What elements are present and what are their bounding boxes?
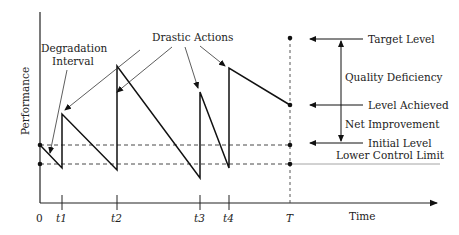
target-level-label: Target Level xyxy=(368,33,435,45)
y-axis-label: Performance xyxy=(19,67,31,135)
dot-initial-y xyxy=(38,143,43,148)
drastic-actions-label: Drastic Actions xyxy=(152,31,233,43)
degradation-label-line2: Interval xyxy=(52,55,95,67)
performance-curve xyxy=(40,66,290,178)
lower-control-limit-label: Lower Control Limit xyxy=(336,149,445,161)
tick-label-t3: t3 xyxy=(194,212,205,224)
net-improvement-label: Net Improvement xyxy=(345,118,440,130)
tick-label-T: T xyxy=(286,212,294,224)
performance-diagram: 0 t1 t2 t3 t4 T Performance Time Drastic… xyxy=(0,0,459,235)
x-axis-label: Time xyxy=(349,210,376,222)
initial-level-label: Initial Level xyxy=(368,137,432,149)
degradation-label-line1: Degradation xyxy=(41,42,108,54)
drastic-arrow-4 xyxy=(200,46,225,66)
dot-lower-y xyxy=(38,162,43,167)
quality-deficiency-label: Quality Deficiency xyxy=(345,71,443,83)
drastic-arrow-3 xyxy=(185,47,198,88)
drastic-arrow-2 xyxy=(117,47,172,92)
tick-label-t1: t1 xyxy=(56,212,67,224)
dot-lower-T xyxy=(288,162,293,167)
tick-label-0: 0 xyxy=(36,212,43,224)
dot-achieved-T xyxy=(288,103,293,108)
dot-target-T xyxy=(288,36,293,41)
degradation-arrow xyxy=(50,70,67,153)
dot-initial-T xyxy=(288,143,293,148)
tick-label-t4: t4 xyxy=(223,212,234,224)
tick-label-t2: t2 xyxy=(111,212,122,224)
level-achieved-label: Level Achieved xyxy=(368,99,449,111)
